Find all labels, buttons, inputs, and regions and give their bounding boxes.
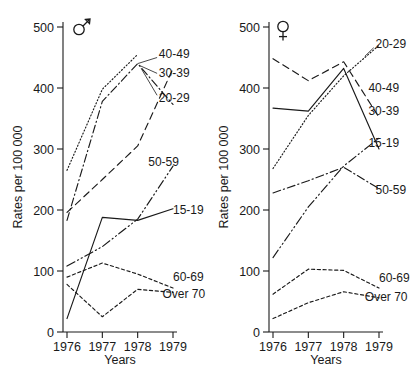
series-line-30-39 (273, 68, 379, 149)
x-axis-title: Years (310, 353, 342, 367)
series-line-over-70 (273, 292, 379, 319)
x-tick-label: 1976 (53, 340, 81, 354)
x-tick-label: 1977 (294, 340, 322, 354)
series-label-30-39: 30-39 (368, 104, 399, 118)
series-label-15-19: 15-19 (173, 203, 204, 217)
series-line-50-59 (273, 167, 379, 193)
chart-svg-male: 0100200300400500 1976197719781979 40-493… (0, 0, 206, 387)
male-symbol (74, 19, 90, 35)
x-tick-label: 1979 (159, 340, 187, 354)
y-axis-male: 0100200300400500 (33, 21, 63, 340)
series-label-over-70: Over 70 (162, 287, 205, 301)
chart-panel-female: 0100200300400500 1976197719781979 20-294… (206, 0, 412, 387)
y-tick-label: 300 (33, 143, 54, 157)
y-axis-title: Rates per 100 000 (217, 126, 231, 229)
series-label-60-69: 60-69 (173, 270, 204, 284)
leader-line-group-female (365, 48, 374, 57)
y-tick-group: 0100200300400500 (33, 21, 63, 340)
x-tick-group: 1976197719781979 (259, 332, 393, 354)
y-tick-label: 400 (239, 82, 260, 96)
x-axis-female: 1976197719781979 (259, 332, 393, 354)
y-tick-label: 0 (47, 326, 54, 340)
y-tick-label: 100 (239, 265, 260, 279)
y-tick-label: 0 (253, 326, 260, 340)
series-line-40-49 (273, 59, 379, 118)
series-line-60-69 (67, 263, 173, 288)
y-tick-label: 500 (239, 21, 260, 35)
x-tick-label: 1978 (330, 340, 358, 354)
y-tick-group: 0100200300400500 (239, 21, 269, 340)
series-label-40-49: 40-49 (159, 47, 190, 61)
female-symbol (278, 21, 288, 40)
series-label-50-59: 50-59 (375, 183, 406, 197)
series-label-20-29: 20-29 (375, 37, 406, 51)
series-line-20-29 (273, 45, 379, 168)
series-label-50-59: 50-59 (148, 155, 179, 169)
y-tick-label: 100 (33, 265, 54, 279)
y-tick-label: 200 (33, 204, 54, 218)
series-line-60-69 (273, 269, 379, 294)
y-axis-female: 0100200300400500 (239, 21, 269, 340)
x-tick-label: 1979 (365, 340, 393, 354)
series-label-60-69: 60-69 (379, 271, 410, 285)
series-label-15-19: 15-19 (368, 136, 399, 150)
chart-panel-male: 0100200300400500 1976197719781979 40-493… (0, 0, 206, 387)
y-tick-label: 200 (239, 204, 260, 218)
figure-root: 0100200300400500 1976197719781979 40-493… (0, 0, 412, 387)
series-line-40-49 (67, 54, 138, 170)
x-axis-male: 1976197719781979 (53, 332, 187, 354)
series-label-20-29: 20-29 (159, 91, 190, 105)
y-tick-label: 500 (33, 21, 54, 35)
series-label-40-49: 40-49 (368, 81, 399, 95)
series-label-30-39: 30-39 (159, 66, 190, 80)
leader-line (365, 48, 374, 57)
chart-svg-female: 0100200300400500 1976197719781979 20-294… (206, 0, 412, 387)
x-tick-label: 1978 (124, 340, 152, 354)
x-tick-label: 1977 (88, 340, 116, 354)
series-line-over-70 (67, 284, 173, 316)
series-group-female (273, 45, 379, 318)
series-line-30-39 (67, 64, 173, 221)
y-axis-title: Rates per 100 000 (11, 126, 25, 229)
y-tick-label: 300 (239, 143, 260, 157)
x-tick-label: 1976 (259, 340, 287, 354)
x-tick-group: 1976197719781979 (53, 332, 187, 354)
x-axis-title: Years (104, 353, 136, 367)
series-line-15-19 (273, 138, 379, 258)
annotation-group-female: 20-2940-4930-3915-1950-5960-69Over 70 (365, 37, 410, 304)
leader-line (138, 58, 157, 64)
series-label-over-70: Over 70 (365, 290, 408, 304)
leader-line-group-male (138, 58, 157, 96)
series-group-male (67, 54, 173, 318)
series-line-15-19 (67, 209, 173, 319)
y-tick-label: 400 (33, 82, 54, 96)
series-line-50-59 (67, 166, 173, 266)
